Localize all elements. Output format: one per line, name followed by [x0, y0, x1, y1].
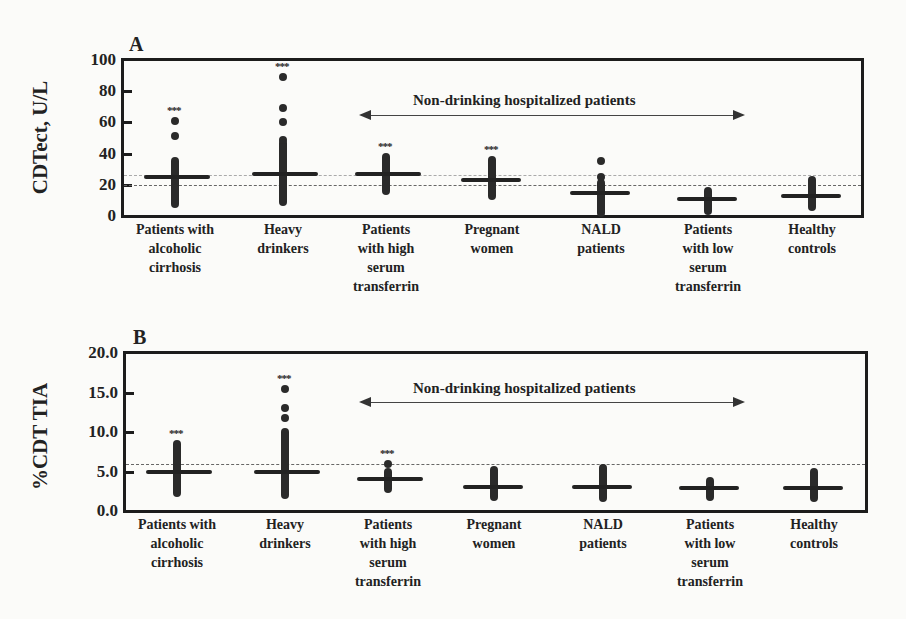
data-points-cluster — [281, 428, 289, 499]
panel-b-arrow-left-icon — [359, 397, 371, 407]
y-tick-label: 0.0 — [68, 501, 118, 521]
significance-marker: *** — [277, 372, 291, 384]
x-category-label: Heavy drinkers — [225, 515, 345, 553]
data-points-cluster — [599, 464, 607, 503]
data-points-cluster — [490, 466, 498, 501]
x-category-label: Patients with low serum transferrin — [650, 515, 770, 591]
median-bar — [146, 470, 212, 474]
x-category-label: Healthy controls — [754, 515, 874, 553]
significance-marker: *** — [380, 447, 394, 459]
data-point — [281, 414, 289, 422]
panel-b-annotation: Non-drinking hospitalized patients — [413, 380, 636, 397]
x-category-label: Patients with high serum transferrin — [328, 515, 448, 591]
median-bar — [463, 485, 523, 489]
median-bar — [783, 486, 843, 490]
panel-b-arrow-line — [371, 402, 735, 403]
y-tick-label: 5.0 — [68, 462, 118, 482]
x-category-label: Patients with alcoholic cirrhosis — [117, 515, 237, 572]
y-tick-label: 10.0 — [68, 422, 118, 442]
data-points-cluster — [173, 440, 181, 497]
significance-marker: *** — [169, 427, 183, 439]
data-point — [281, 385, 289, 393]
median-bar — [679, 486, 739, 490]
panel-b-letter: B — [133, 326, 146, 349]
median-bar — [572, 485, 632, 489]
panel-b-y-axis-label: %CDT TIA — [28, 367, 53, 507]
x-category-label: Pregnant women — [434, 515, 554, 553]
panel-b: B %CDT TIA 0.05.010.015.020.0 ********* … — [0, 0, 906, 619]
y-tick-label: 15.0 — [68, 383, 118, 403]
x-category-label: NALD patients — [543, 515, 663, 553]
reference-line — [126, 464, 865, 465]
panel-b-arrow-right-icon — [733, 397, 745, 407]
median-bar — [254, 470, 320, 474]
median-bar — [357, 477, 423, 481]
y-tick-label: 20.0 — [68, 343, 118, 363]
